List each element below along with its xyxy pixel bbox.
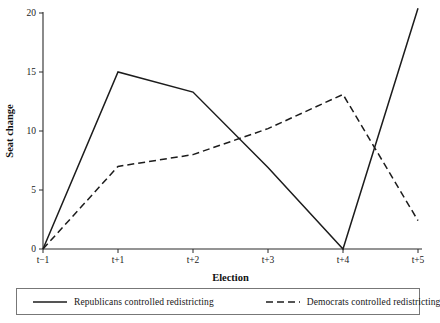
y-tick-label: 15 [27,67,37,77]
x-axis-ticks: t−1t+1t+2t+3t+4t+5 [37,249,425,265]
x-tick-label: t−1 [37,255,50,265]
legend-row: Republicans controlled redistricting Dem… [17,289,419,314]
legend-label-republicans: Republicans controlled redistricting [74,297,214,307]
legend-swatch-solid-icon [33,297,67,307]
x-axis-title: Election [212,272,249,283]
x-tick-label: t+1 [112,255,125,265]
chart-legend: Republicans controlled redistricting Dem… [16,288,420,315]
y-tick-label: 5 [31,185,36,195]
y-axis-ticks: 05101520 [27,8,44,254]
x-tick-label: t+4 [337,255,350,265]
y-tick-label: 10 [27,126,37,136]
y-axis-title: Seat change [4,104,15,158]
x-tick-label: t+3 [262,255,275,265]
y-tick-label: 0 [31,244,36,254]
x-tick-label: t+5 [412,255,425,265]
series-group [43,8,418,249]
legend-swatch-dashed-icon [266,297,300,307]
legend-entry-democrats: Democrats controlled redistricting [266,297,440,307]
line-chart-plot: 05101520 t−1t+1t+2t+3t+4t+5 Seat change … [0,0,437,285]
x-tick-label: t+2 [187,255,200,265]
y-tick-label: 20 [27,8,37,18]
legend-label-democrats: Democrats controlled redistricting [307,297,440,307]
series-line-republicans [43,8,418,249]
legend-entry-republicans: Republicans controlled redistricting [33,297,214,307]
